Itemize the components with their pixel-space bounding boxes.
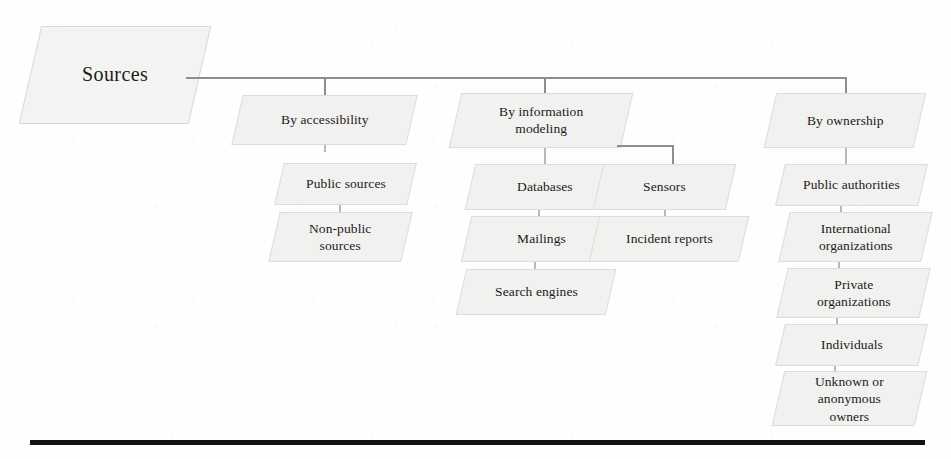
node-by-information-modeling-label: By information modeling: [493, 103, 589, 138]
trunk-drop-accessibility: [324, 77, 326, 95]
node-by-accessibility: By accessibility: [231, 95, 418, 145]
connector-information-modeling-3: [534, 262, 536, 269]
node-search-engines: Search engines: [456, 269, 617, 315]
node-incident-reports-label: Incident reports: [620, 230, 719, 247]
node-unknown-or-anonymous-owners-label: Unknown or anonymous owners: [809, 373, 890, 425]
node-public-authorities-label: Public authorities: [797, 176, 906, 193]
node-unknown-or-anonymous-owners: Unknown or anonymous owners: [772, 371, 928, 426]
node-public-sources-label: Public sources: [300, 175, 392, 192]
node-sources-label: Sources: [76, 62, 154, 88]
node-public-sources: Public sources: [274, 163, 417, 205]
node-mailings-label: Mailings: [511, 230, 572, 247]
node-search-engines-label: Search engines: [489, 283, 584, 300]
connector-ownership-1: [845, 148, 847, 164]
node-sensors: Sensors: [593, 164, 737, 210]
node-sources: Sources: [19, 26, 212, 124]
node-by-information-modeling: By information modeling: [449, 93, 634, 148]
elbow-sensors-horizontal: [617, 145, 674, 147]
node-by-accessibility-label: By accessibility: [275, 111, 374, 128]
node-incident-reports: Incident reports: [589, 216, 750, 262]
diagram-canvas: Sources By accessibility Public sources …: [0, 0, 951, 459]
connector-information-modeling-1: [544, 148, 546, 164]
trunk-horizontal: [186, 77, 847, 79]
node-private-organizations: Private organizations: [776, 268, 931, 318]
node-private-organizations-label: Private organizations: [811, 276, 897, 311]
node-non-public-sources: Non-public sources: [268, 212, 413, 262]
connector-accessibility-2: [339, 205, 341, 212]
node-by-ownership-label: By ownership: [801, 112, 890, 129]
elbow-sensors-drop: [672, 145, 674, 164]
node-international-organizations-label: International organizations: [813, 220, 899, 255]
node-non-public-sources-label: Non-public sources: [303, 220, 378, 255]
node-international-organizations: International organizations: [778, 212, 933, 262]
trunk-drop-ownership: [845, 77, 847, 93]
node-databases-label: Databases: [511, 178, 579, 195]
page-divider-rule: [30, 440, 925, 445]
connector-accessibility-1: [324, 145, 326, 152]
node-individuals-label: Individuals: [815, 336, 889, 353]
node-sensors-label: Sensors: [637, 178, 692, 195]
trunk-drop-information-modeling: [544, 77, 546, 94]
node-public-authorities: Public authorities: [775, 164, 928, 206]
node-by-ownership: By ownership: [764, 93, 927, 148]
node-individuals: Individuals: [775, 324, 928, 366]
